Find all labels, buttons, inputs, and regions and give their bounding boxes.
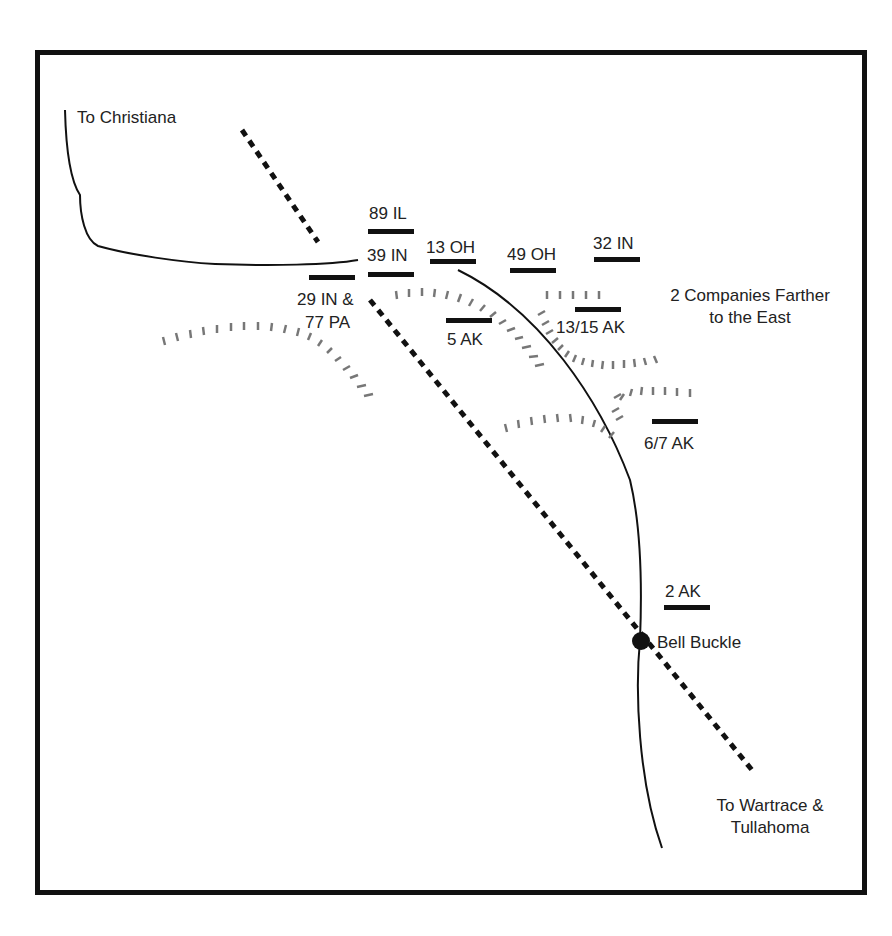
place-christiana: To Christiana — [77, 108, 176, 128]
note-line1: 2 Companies Farther — [655, 286, 845, 306]
unit-label-13oh: 13 OH — [426, 238, 475, 258]
unit-marker-5ak — [446, 318, 492, 323]
unit-label-89il: 89 IL — [369, 204, 407, 224]
unit-marker-39in — [368, 272, 414, 277]
ridge-south-center — [505, 414, 614, 438]
unit-label-2ak: 2 AK — [665, 582, 701, 602]
unit-marker-29in-77pa — [309, 275, 355, 280]
unit-label-67ak: 6/7 AK — [644, 434, 694, 454]
unit-marker-49oh — [510, 268, 556, 273]
ridge-east-67 — [612, 387, 690, 420]
place-wartrace-line2: Tullahoma — [710, 818, 830, 838]
railroad-north — [242, 130, 318, 242]
road-to-christiana — [65, 110, 358, 265]
ridge-west — [163, 322, 373, 396]
unit-label-1315ak: 13/15 AK — [556, 318, 625, 338]
unit-marker-32in — [594, 257, 640, 262]
railroad-south — [370, 300, 752, 770]
road-bell-buckle — [458, 270, 662, 848]
unit-marker-89il — [368, 229, 414, 234]
unit-marker-67ak — [652, 419, 698, 424]
bell-buckle-town-icon — [632, 632, 650, 650]
unit-marker-1315ak — [575, 307, 621, 312]
unit-label-77pa: 77 PA — [305, 313, 350, 333]
unit-label-5ak: 5 AK — [447, 330, 483, 350]
place-wartrace-line1: To Wartrace & — [710, 796, 830, 816]
unit-marker-2ak — [664, 605, 710, 610]
unit-label-49oh: 49 OH — [507, 245, 556, 265]
unit-label-32in: 32 IN — [593, 234, 634, 254]
ridge-center — [396, 288, 544, 366]
unit-label-39in: 39 IN — [367, 246, 408, 266]
note-line2: to the East — [655, 308, 845, 328]
unit-label-29in: 29 IN & — [297, 290, 354, 310]
unit-marker-13oh — [430, 259, 476, 264]
place-bell-buckle: Bell Buckle — [657, 633, 741, 653]
